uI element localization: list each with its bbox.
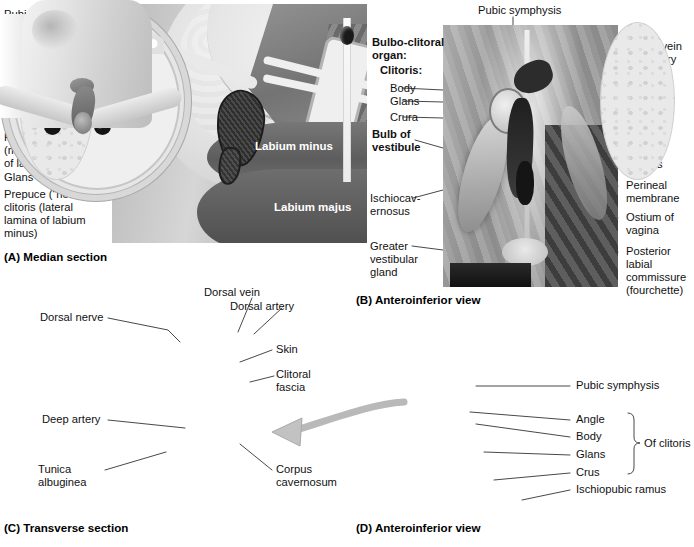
panel-a-inimage-labium-minus: Labium minus [255,140,333,152]
panel-b-label-ostium-1: Ostium of [626,211,674,224]
panel-c-label-corpus-2: cavernosum [276,476,337,489]
panel-d-label-pubic-symphysis: Pubic symphysis [576,379,659,392]
panel-b-artwork [443,25,618,287]
panel-a-caption: (A) Median section [4,250,107,263]
panel-b-label-posterior-3: commissure [626,271,686,284]
panel-c-label-clitoral-fascia-1: Clitoral [276,368,311,381]
panel-b-heading-organ: organ: [372,49,407,62]
panel-c-label-corpus-1: Corpus [276,463,312,476]
leader-d-angle [470,412,570,420]
panel-b-label-ischiocavernosus-1: Ischiocav- [370,192,420,205]
brace-of-clitoris [628,413,640,474]
leader-d-crus [494,473,570,480]
panel-c-label-dorsal-artery: Dorsal artery [230,300,294,313]
panel-b-label-crura: Crura [390,111,418,124]
panel-b-label-bulb-1: Bulb of [372,128,411,141]
panel-b-label-glans: Glans [390,95,419,108]
leader-c-corpus-cavernosum [240,444,272,470]
panel-b-label-posterior-1: Posterior [626,245,671,258]
panel-c-label-skin: Skin [276,343,298,356]
panel-c-label-deep-artery: Deep artery [42,413,100,426]
panel-d-label-glans: Glans [576,448,605,461]
panel-b-heading-clitoris: Clitoris: [380,64,422,77]
panel-a-label-prepuce-3: lamina of labium [4,214,85,227]
panel-d-label-body: Body [576,430,602,443]
panel-c-label-tunica-1: Tunica [38,463,71,476]
leader-d-ischiopubic-ramus [522,490,570,500]
leader-d-glans [484,452,570,455]
panel-c-label-dorsal-vein: Dorsal vein [204,286,260,299]
leader-c-tunica-albuginea [105,452,166,470]
panel-b-heading-bulbo-clitoral: Bulbo-clitoral [372,36,444,49]
panel-d-label-of-clitoris: Of clitoris [644,437,691,450]
panel-b-label-ischiocavernosus-2: ernosus [370,205,410,218]
panel-c-label-tunica-2: albuginea [38,476,87,489]
dorsal-vein-marker [340,26,354,45]
panel-b-label-perineal-2: membrane [626,192,679,205]
panel-b-label-posterior-4: (fourchette) [626,284,683,297]
panel-d-label-angle: Angle [576,413,605,426]
leader-c-clitoral-fascia [250,376,274,382]
panel-d-caption: (D) Anteroinferior view [356,521,481,534]
panel-a-label-prepuce-2: clitoris (lateral [4,201,73,214]
panel-d-label-crus: Crus [576,466,600,479]
leader-c-deep-artery [108,420,185,428]
transfer-arrow [272,402,404,446]
leader-d-body [476,424,570,437]
panel-b-label-body: Body [390,82,416,95]
panel-c-caption: (C) Transverse section [4,521,128,534]
panel-b-label-bulb-2: vestibule [372,141,421,154]
panel-a-label-prepuce-4: minus) [4,227,38,240]
panel-b-label-ostium-2: vagina [626,224,659,237]
panel-b-label-gvg-2: vestibular [370,253,418,266]
panel-c-label-clitoral-fascia-2: fascia [276,381,305,394]
panel-c-label-dorsal-nerve: Dorsal nerve [40,311,103,324]
panel-b-label-gvg-3: gland [370,266,397,279]
panel-b-caption: (B) Anteroinferior view [356,293,481,306]
panel-b-label-pubic-symphysis: Pubic symphysis [478,4,561,17]
leader-c-skin [240,350,272,362]
panel-d-label-ischiopubic-ramus: Ischiopubic ramus [576,483,666,496]
panel-b-label-posterior-2: labial [626,258,652,271]
panel-a-inimage-labium-majus: Labium majus [274,201,351,213]
panel-b-label-perineal-1: Perineal [626,179,667,192]
panel-b-label-gvg-1: Greater [370,240,408,253]
